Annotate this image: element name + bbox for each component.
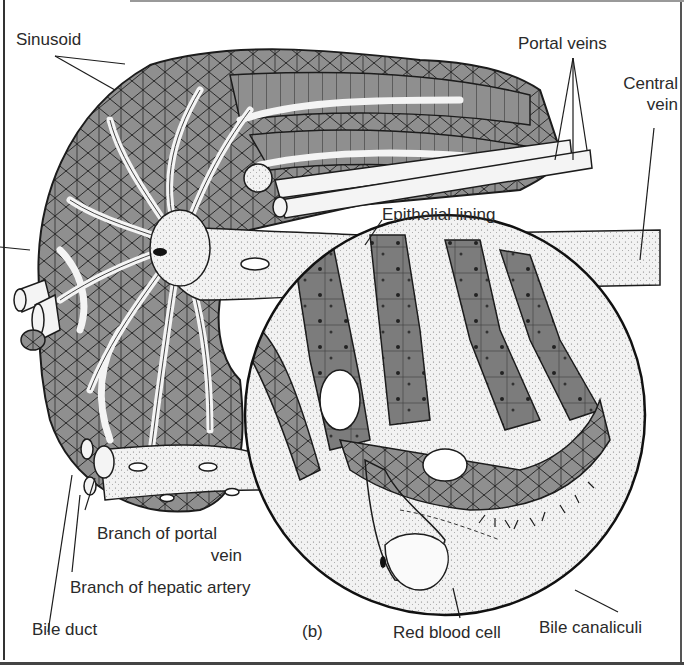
label-red-blood-cell: Red blood cell bbox=[393, 623, 501, 642]
portal-tract bbox=[81, 439, 260, 502]
figure-frame: Sinusoid Portal veins Central vein Epith… bbox=[0, 0, 684, 669]
label-branch-portal-vein-line2: vein bbox=[160, 546, 242, 565]
label-sinusoid: Sinusoid bbox=[16, 30, 81, 49]
label-epithelial-lining: Epithelial lining bbox=[382, 205, 495, 224]
label-branch-hepatic-artery: Branch of hepatic artery bbox=[70, 578, 250, 597]
label-branch-portal-vein-line1: Branch of portal bbox=[97, 524, 217, 543]
liver-lobule-illustration bbox=[0, 0, 684, 669]
magnified-section bbox=[240, 215, 650, 615]
label-portal-veins: Portal veins bbox=[518, 34, 607, 53]
label-central-vein-line2: vein bbox=[604, 95, 678, 114]
label-bile-canaliculi: Bile canaliculi bbox=[539, 618, 642, 637]
label-bile-duct: Bile duct bbox=[32, 620, 97, 639]
panel-label-b: (b) bbox=[302, 622, 323, 641]
label-central-vein-line1: Central bbox=[604, 74, 678, 93]
